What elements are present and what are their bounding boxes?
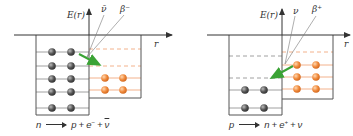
neutrino-label: ν — [293, 7, 298, 16]
beta-minus-panel — [14, 9, 172, 115]
proton-levels — [89, 49, 141, 90]
transition-arrow-icon — [273, 66, 293, 77]
beta-minus-label: β⁻ — [120, 5, 130, 14]
reaction-arrow-icon — [46, 124, 66, 125]
eq-plus: + — [79, 120, 85, 130]
eq-product-1: n — [264, 120, 269, 130]
eq-product-1: p — [71, 120, 76, 130]
beta-plus-label: β⁺ — [312, 5, 322, 14]
beta-decay-diagram — [0, 0, 353, 136]
eq-product-3: ν — [298, 120, 303, 130]
neutron-levels — [229, 56, 282, 108]
beta-minus-line — [87, 15, 124, 57]
energy-axis-label: E(r) — [67, 11, 85, 20]
antineutrino-line — [87, 15, 104, 57]
energy-axis-label: E(r) — [260, 11, 278, 20]
beta-plus-panel — [207, 9, 350, 115]
reaction-arrow-icon — [239, 124, 259, 125]
eq-plus: + — [272, 120, 278, 130]
eq-lhs: p — [229, 120, 234, 130]
eq-plus: + — [97, 120, 103, 130]
beta-plus-equation: p n + e+ + ν — [229, 120, 302, 130]
r-axis-label: r — [344, 40, 348, 49]
neutron-levels — [36, 52, 89, 108]
eq-plus: + — [290, 120, 296, 130]
beta-minus-equation: n p + e− + ν — [36, 120, 109, 130]
neutrons — [48, 48, 75, 112]
beta-plus-line — [285, 16, 316, 64]
proton-levels — [282, 52, 333, 89]
antineutrino-label: ν̄ — [101, 5, 106, 14]
eq-product-2: e− — [86, 120, 95, 130]
eq-product-3: ν — [105, 120, 110, 130]
r-axis-label: r — [154, 40, 158, 49]
protons — [101, 74, 127, 94]
eq-lhs: n — [36, 120, 41, 130]
eq-product-2: e+ — [279, 120, 288, 130]
